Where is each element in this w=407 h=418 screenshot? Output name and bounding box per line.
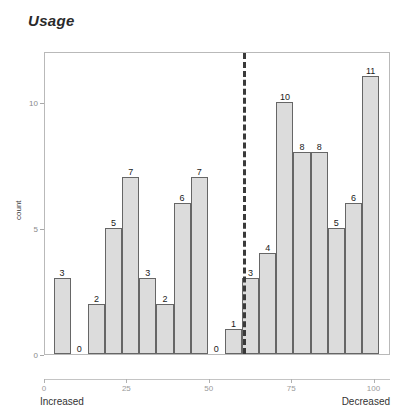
bar: [311, 152, 328, 354]
x-axis-tick-label: 100: [367, 384, 380, 393]
reference-line-annotation: [243, 53, 246, 354]
bar-value-label: 0: [214, 344, 219, 354]
bar: [328, 228, 345, 354]
bar: [293, 152, 310, 354]
x-axis-tick-mark: [374, 379, 375, 383]
y-axis-tick-mark: [40, 103, 44, 104]
x-axis-left-endpoint-label: Increased: [40, 396, 84, 407]
x-axis-tick-label: 0: [42, 384, 46, 393]
bar-value-label: 4: [265, 243, 270, 253]
y-axis-tick-label: 5: [18, 224, 38, 233]
bar-value-label: 3: [60, 268, 65, 278]
bar: [139, 278, 156, 354]
bar: [276, 102, 293, 355]
y-axis-tick-mark: [40, 355, 44, 356]
y-axis-tick-mark: [40, 229, 44, 230]
x-axis-tick-label: 25: [122, 384, 131, 393]
plot-area: 302573267013410885611: [44, 52, 390, 355]
bar-value-label: 7: [197, 167, 202, 177]
bar: [54, 278, 71, 354]
bar: [345, 203, 362, 355]
bars-layer: 302573267013410885611: [45, 53, 389, 354]
bar-value-label: 11: [366, 66, 375, 76]
bar-value-label: 7: [128, 167, 133, 177]
bar-value-label: 1: [231, 319, 236, 329]
y-axis-label: count: [14, 200, 23, 220]
bar-value-label: 5: [334, 218, 339, 228]
bar: [122, 177, 139, 354]
chart-title: Usage: [28, 12, 75, 29]
x-axis-line: [44, 379, 390, 380]
x-axis-tick-label: 75: [287, 384, 296, 393]
bar-value-label: 3: [145, 268, 150, 278]
x-axis-tick-mark: [209, 379, 210, 383]
bar: [105, 228, 122, 354]
bar: [362, 76, 379, 354]
bar: [88, 304, 105, 355]
x-axis-tick-mark: [291, 379, 292, 383]
bar: [156, 304, 173, 355]
x-axis-tick-mark: [126, 379, 127, 383]
y-axis-tick-label: 10: [18, 98, 38, 107]
bar: [225, 329, 242, 354]
bar: [174, 203, 191, 355]
y-axis-tick-label: 0: [18, 351, 38, 360]
bar: [191, 177, 208, 354]
x-axis-tick-mark: [44, 379, 45, 383]
bar-value-label: 5: [111, 218, 116, 228]
chart-container: Usage count 302573267013410885611 025507…: [0, 0, 407, 418]
bar-value-label: 10: [280, 92, 290, 102]
bar: [259, 253, 276, 354]
bar-value-label: 8: [300, 142, 305, 152]
bar-value-label: 3: [248, 268, 253, 278]
bar-value-label: 8: [317, 142, 322, 152]
bar-value-label: 6: [180, 193, 185, 203]
bar-value-label: 2: [94, 294, 99, 304]
x-axis-right-endpoint-label: Decreased: [342, 396, 390, 407]
bar-value-label: 6: [351, 193, 356, 203]
bar-value-label: 2: [162, 294, 167, 304]
x-axis-tick-label: 50: [204, 384, 213, 393]
bar-value-label: 0: [77, 344, 82, 354]
